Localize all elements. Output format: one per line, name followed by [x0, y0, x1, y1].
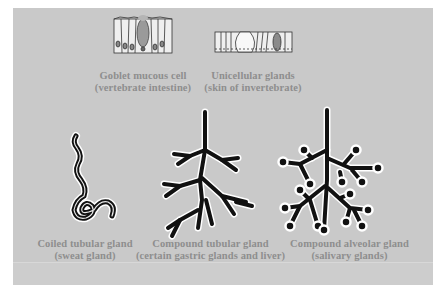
goblet-cell-title: Goblet mucous cell: [88, 70, 198, 82]
compound-tubular-caption: Compound tubular gland (certain gastric …: [133, 238, 288, 262]
coiled-tubular-caption: Coiled tubular gland (sweat gland): [30, 238, 140, 262]
coiled-tubular-subtitle: (sweat gland): [30, 250, 140, 262]
coiled-tubular-title: Coiled tubular gland: [30, 238, 140, 250]
compound-alveolar-subtitle: (salivary glands): [287, 250, 412, 262]
compound-tubular-gland-icon: [164, 112, 252, 236]
compound-tubular-subtitle: (certain gastric glands and liver): [133, 250, 288, 262]
unicellular-glands-subtitle: (skin of invertebrate): [198, 82, 308, 94]
goblet-cell-subtitle: (vertebrate intestine): [88, 82, 198, 94]
compound-alveolar-caption: Compound alveolar gland (salivary glands…: [287, 238, 412, 262]
unicellular-glands-caption: Unicellular glands (skin of invertebrate…: [198, 70, 308, 94]
unicellular-glands-icon: [215, 32, 292, 52]
compound-alveolar-title: Compound alveolar gland: [287, 238, 412, 250]
compound-alveolar-gland-icon: [279, 110, 383, 235]
unicellular-glands-title: Unicellular glands: [198, 70, 308, 82]
goblet-cell-icon: [114, 15, 172, 53]
goblet-cell-caption: Goblet mucous cell (vertebrate intestine…: [88, 70, 198, 94]
compound-tubular-title: Compound tubular gland: [133, 238, 288, 250]
coiled-tubular-gland-icon: [74, 136, 113, 218]
